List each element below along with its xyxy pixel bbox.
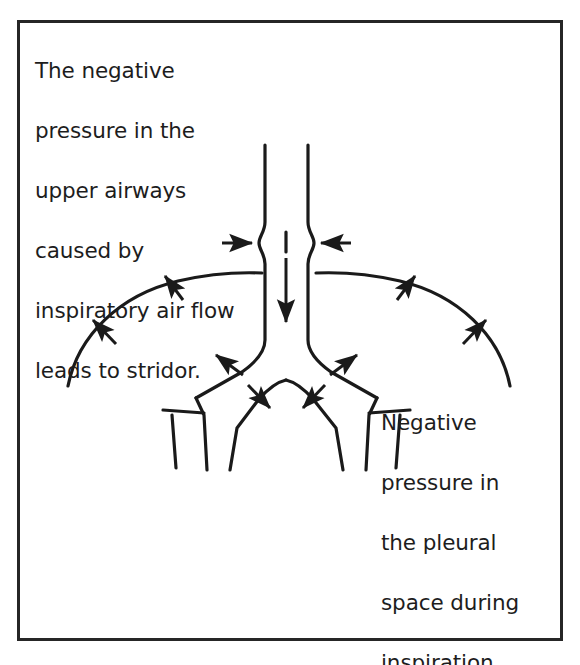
- upper-airway-caption-line-5: inspiratory air flow: [35, 296, 270, 326]
- pleural-space-caption-line-4: space during: [381, 588, 561, 618]
- upper-airway-caption-line-3: upper airways: [35, 176, 270, 206]
- pleural-space-caption-line-1: Negative: [381, 408, 561, 438]
- upper-airway-caption-line-2: pressure in the: [35, 116, 270, 146]
- pleural-space-caption-line-3: the pleural: [381, 528, 561, 558]
- pleural-space-caption: Negative pressure in the pleural space d…: [381, 378, 561, 665]
- upper-airway-caption-line-1: The negative: [35, 56, 270, 86]
- upper-airway-caption-line-4: caused by: [35, 236, 270, 266]
- upper-airway-caption: The negative pressure in the upper airwa…: [35, 26, 270, 416]
- pleural-space-caption-line-5: inspiration: [381, 648, 561, 665]
- upper-airway-caption-line-6: leads to stridor.: [35, 356, 270, 386]
- figure-root: The negative pressure in the upper airwa…: [0, 0, 580, 665]
- pleural-space-caption-line-2: pressure in: [381, 468, 561, 498]
